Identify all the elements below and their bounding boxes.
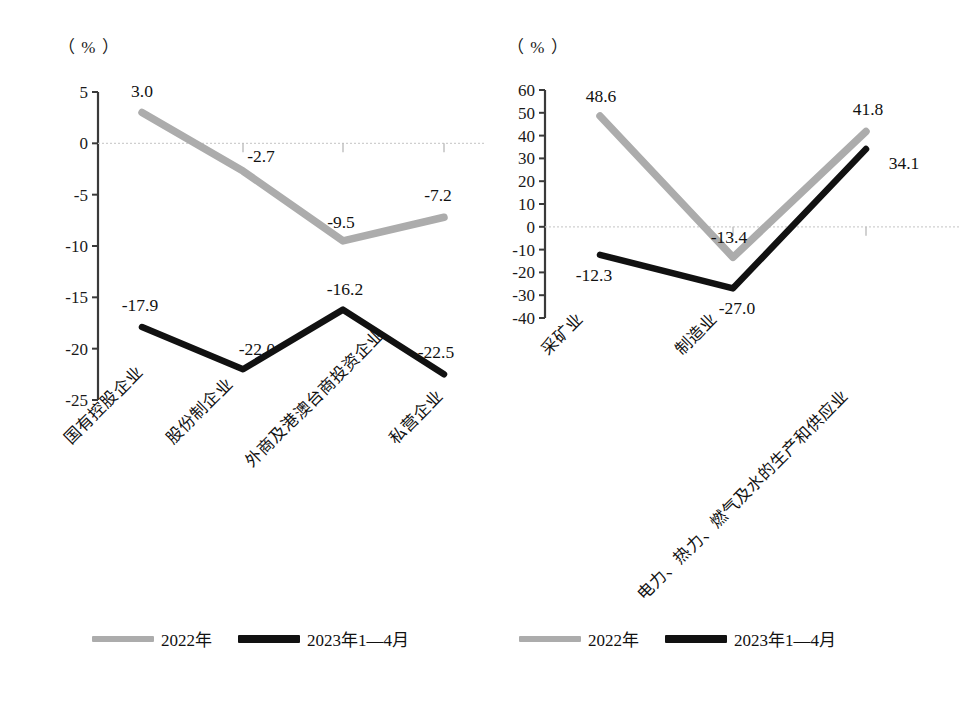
chart-panel-right: （ % ） 6050403020100-10-20-30-4048.6-13.4… [485,0,961,703]
y-axis-tick-label: 40 [518,127,535,146]
chart-panel-left: （ % ） 50-5-10-15-20-253.0-2.7-9.5-7.2-17… [0,0,485,703]
data-value-label: -13.4 [711,227,748,247]
y-axis-unit-label-right: （ % ） [507,33,569,58]
legend-swatch-2023-icon [665,635,727,643]
y-axis-tick-label: -40 [512,309,535,328]
legend-label-2022: 2022年 [588,626,639,651]
y-axis-tick-label: -10 [512,241,535,260]
y-axis-tick-label: -10 [65,237,88,256]
data-value-label: -7.2 [424,185,452,205]
legend-label-2023: 2023年1—4月 [734,626,836,651]
legend-item-2023-left[interactable]: 2023年1—4月 [238,626,409,651]
data-value-label: -9.5 [327,212,355,232]
y-axis-tick-label: -30 [512,286,535,305]
y-axis-tick-label: 5 [80,83,89,102]
data-value-label: -27.0 [719,298,756,318]
legend-label-2022: 2022年 [161,626,212,651]
legend-swatch-2022-icon [92,636,154,642]
y-axis-tick-label: -5 [74,186,88,205]
data-value-label: 34.1 [889,153,920,173]
y-axis-tick-label: 10 [518,195,535,214]
data-value-label: -12.3 [576,265,613,285]
y-axis-tick-label: -20 [65,340,88,359]
data-value-label: 3.0 [131,81,153,101]
series-line-0 [142,113,444,241]
series-line-1 [142,310,444,375]
legend-left: 2022年 2023年1—4月 [92,626,409,651]
line-chart-left: 50-5-10-15-20-253.0-2.7-9.5-7.2-17.9-22.… [0,0,485,600]
data-value-label: -22.0 [239,339,276,359]
data-value-label: -16.2 [327,279,363,299]
legend-swatch-2022-icon [519,636,581,642]
y-axis-tick-label: 60 [518,81,535,100]
legend-right: 2022年 2023年1—4月 [519,626,836,651]
legend-item-2022-right[interactable]: 2022年 [519,626,639,651]
data-value-label: 41.8 [853,99,884,119]
y-axis-tick-label: 0 [80,134,89,153]
y-axis-tick-label: -20 [512,263,535,282]
data-value-label: -22.5 [418,342,455,362]
y-axis-tick-label: 50 [518,104,535,123]
data-value-label: -2.7 [247,146,275,166]
y-axis-tick-label: -15 [65,288,88,307]
y-axis-tick-label: 20 [518,172,535,191]
legend-swatch-2023-icon [238,635,300,643]
legend-item-2022-left[interactable]: 2022年 [92,626,212,651]
y-axis-tick-label: 30 [518,149,535,168]
legend-label-2023: 2023年1—4月 [307,626,409,651]
chart-page: （ % ） 50-5-10-15-20-253.0-2.7-9.5-7.2-17… [0,0,961,703]
legend-item-2023-right[interactable]: 2023年1—4月 [665,626,836,651]
y-axis-tick-label: 0 [527,218,536,237]
data-value-label: 48.6 [586,86,617,106]
data-value-label: -17.9 [122,295,159,315]
y-axis-unit-label-left: （ % ） [58,33,120,58]
